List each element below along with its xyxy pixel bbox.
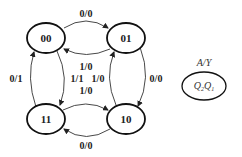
transition-label-00-01: 0/0 — [80, 8, 93, 19]
state-label: 11 — [41, 113, 51, 125]
transition-10-to-01 — [109, 52, 116, 105]
transition-label-01-00: 1/0 — [80, 61, 93, 72]
state-01: 01 — [107, 23, 145, 53]
transition-label-01-10: 0/0 — [150, 73, 163, 84]
legend-edge-label: A/Y — [196, 57, 213, 68]
state-11: 11 — [27, 104, 65, 134]
transition-label-00-11: 1/1 — [71, 73, 84, 84]
transition-01-to-00 — [64, 49, 110, 55]
legend-state-label: Q2Q1 — [194, 80, 214, 92]
transition-11-to-00 — [30, 52, 36, 107]
state-label: 10 — [121, 113, 133, 125]
transition-label-11-10: 1/0 — [80, 85, 93, 96]
transition-01-to-10 — [138, 47, 146, 106]
transition-label-10-01: 1/0 — [92, 73, 105, 84]
transition-10-to-11 — [64, 129, 110, 137]
transition-00-to-11 — [57, 51, 64, 105]
state-label: 00 — [41, 32, 53, 44]
state-10: 10 — [107, 104, 145, 134]
state-00: 00 — [27, 23, 65, 53]
transition-11-to-10 — [63, 104, 108, 110]
state-label: 01 — [121, 32, 132, 44]
transition-label-10-11: 0/0 — [80, 140, 93, 151]
transition-label-11-00: 0/1 — [10, 73, 23, 84]
legend: A/Y Q2Q1 — [182, 57, 226, 100]
transition-00-to-01 — [64, 21, 108, 28]
state-diagram: 00 01 11 10 0/0 1/0 0/0 1/0 1/1 0/1 1/0 … — [0, 0, 242, 157]
